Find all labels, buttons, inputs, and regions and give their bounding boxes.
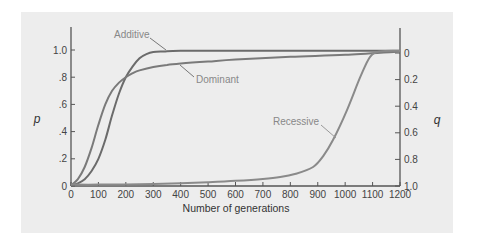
label-recessive: Recessive [273, 116, 320, 127]
y-tick-label-right: 0.4 [404, 101, 418, 112]
x-tick-label: 600 [227, 189, 244, 200]
label-additive: Additive [114, 29, 150, 40]
y-tick-label-left: .4 [59, 126, 68, 137]
y-tick-label-left: .8 [59, 72, 68, 83]
chart: 0100200300400500600700800900100011001200… [0, 0, 479, 247]
x-tick-label: 400 [172, 189, 189, 200]
x-tick-label: 1100 [362, 189, 384, 200]
x-tick-label: 900 [309, 189, 326, 200]
x-tick-label: 500 [200, 189, 217, 200]
x-tick-label: 100 [90, 189, 107, 200]
x-tick-label: 800 [282, 189, 299, 200]
y-axis-title-right: q [434, 113, 441, 127]
x-tick-label: 300 [145, 189, 162, 200]
y-tick-label-right: 1.0 [404, 181, 418, 192]
x-tick-label: 200 [117, 189, 134, 200]
y-tick-label-left: 1.0 [53, 45, 67, 56]
y-axis-title-left: p [33, 112, 41, 126]
y-tick-label-left: 0 [61, 181, 67, 192]
y-tick-label-right: 0 [404, 48, 410, 59]
label-dominant: Dominant [196, 74, 239, 85]
y-tick-label-left: .6 [59, 99, 68, 110]
y-tick-label-right: 0.8 [404, 154, 418, 165]
y-tick-label-right: 0.2 [404, 74, 418, 85]
x-axis-title: Number of generations [183, 202, 290, 214]
y-tick-label-left: .2 [59, 153, 68, 164]
x-tick-label: 1000 [334, 189, 357, 200]
x-tick-label: 0 [68, 189, 74, 200]
x-tick-label: 700 [255, 189, 272, 200]
y-tick-label-right: 0.6 [404, 127, 418, 138]
